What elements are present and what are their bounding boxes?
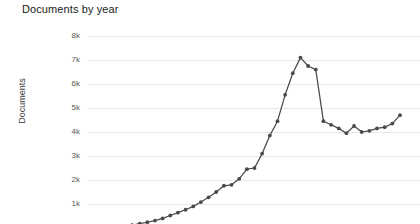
data-point [168, 214, 172, 218]
data-point [283, 93, 287, 97]
data-point [299, 56, 303, 60]
data-point [367, 129, 371, 133]
data-point [230, 183, 234, 187]
data-point [337, 126, 341, 130]
data-point [207, 195, 211, 199]
data-point [360, 130, 364, 134]
series-line [132, 58, 400, 224]
chart-container: Documents by year Documents 8k7k6k5k4k3k… [0, 0, 420, 224]
data-point [390, 122, 394, 126]
data-point [145, 220, 149, 224]
data-point [138, 222, 142, 224]
plot-area [0, 0, 420, 224]
data-point [306, 64, 310, 68]
data-point [260, 152, 264, 156]
data-point [222, 184, 226, 188]
data-point [191, 205, 195, 209]
data-point [268, 134, 272, 138]
data-point [383, 125, 387, 129]
data-point [345, 131, 349, 135]
data-point [322, 119, 326, 123]
data-point [184, 208, 188, 212]
data-point [176, 211, 180, 215]
data-point [329, 123, 333, 127]
data-point [375, 126, 379, 130]
data-point [214, 190, 218, 194]
data-point [153, 219, 157, 223]
data-point [291, 71, 295, 75]
data-point [161, 217, 165, 221]
data-point [398, 113, 402, 117]
data-point [253, 166, 257, 170]
data-point [237, 177, 241, 181]
data-point [245, 167, 249, 171]
data-series [130, 56, 402, 224]
gridlines [88, 37, 420, 205]
data-point [276, 119, 280, 123]
data-point [130, 223, 134, 224]
data-point [199, 200, 203, 204]
data-point [314, 68, 318, 72]
data-point [352, 124, 356, 128]
